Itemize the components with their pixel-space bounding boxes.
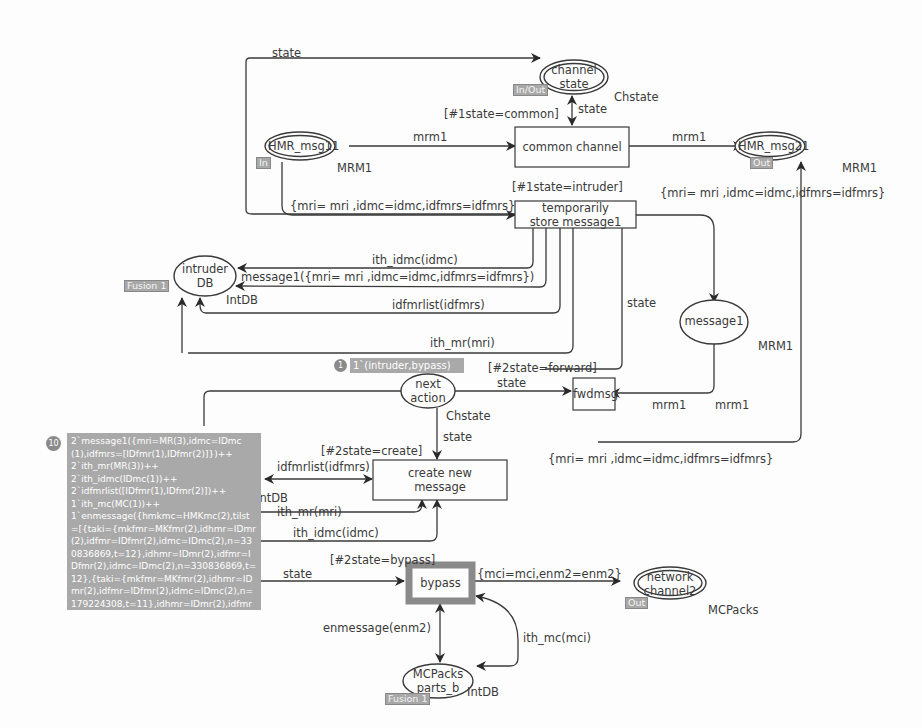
token-count-badge[interactable]: 1 — [334, 359, 347, 372]
transition-common-channel[interactable]: common channel — [515, 140, 629, 154]
colorset-chstate: Chstate — [446, 409, 490, 423]
arc-label: idfmrlist(idfmrs) — [277, 460, 370, 474]
arc-label: state — [283, 567, 312, 581]
colorset-chstate: Chstate — [614, 90, 658, 104]
arc-label: {mri= mri ,idmc=idmc,idfmrs=idfmrs} — [660, 186, 885, 200]
arc-label: state — [627, 296, 656, 310]
arc-label: ith_mc(mci) — [523, 631, 591, 645]
transition-create-new-message[interactable]: create new message — [373, 466, 507, 494]
colorset-intdb: IntDB — [467, 685, 499, 699]
place-network-channel2[interactable]: network channel2 — [640, 570, 700, 598]
arc-label: mrm1 — [413, 130, 447, 144]
arc-label: state — [497, 376, 526, 390]
place-hmr-msg11[interactable]: HMR_msg11 — [268, 139, 332, 153]
arc-label: enmessage(enm2) — [323, 621, 431, 635]
transition-bypass[interactable]: bypass — [409, 576, 472, 590]
colorset-mcpacks: MCPacks — [708, 603, 758, 617]
arc-label: {mri= mri ,idmc=idmc,idfmrs=idfmrs} — [290, 199, 515, 213]
port-tag-out: Out — [750, 157, 773, 169]
place-message1[interactable]: message1 — [684, 314, 744, 328]
arc-label: mrm1 — [715, 398, 749, 412]
arc-label: state — [578, 102, 607, 116]
marking-next-action: 1`(intruder,bypass) — [350, 358, 464, 373]
place-hmr-msg21[interactable]: HMR_msg21 — [738, 139, 802, 153]
arc-label: {mri= mri ,idmc=idmc,idfmrs=idfmrs} — [548, 452, 773, 466]
arc-label: {mci=mci,enm2=enm2} — [477, 567, 622, 581]
arc-label: ith_idmc(idmc) — [293, 526, 379, 540]
guard-create: [#2state=create] — [321, 444, 422, 458]
arc-label: state — [443, 430, 472, 444]
fusion-tag: Fusion 1 — [385, 693, 430, 705]
colorset-mrm1: MRM1 — [337, 161, 372, 175]
guard-bypass: [#2state=bypass] — [330, 553, 435, 567]
arc-label: message1({mri= mri ,idmc=idmc,idfmrs=idf… — [241, 270, 534, 284]
arc-label: idfmrlist(idfmrs) — [392, 298, 485, 312]
transition-fwdmsg[interactable]: fwdmsg — [573, 387, 615, 401]
guard-common: [#1state=common] — [444, 107, 559, 121]
arc-label: ith_mr(mri) — [277, 505, 342, 519]
colorset-mrm1: MRM1 — [842, 161, 877, 175]
port-tag-in: In — [256, 157, 271, 169]
port-tag-in-out: In/Out — [513, 84, 548, 96]
colorset-intdb: IntDB — [226, 293, 258, 307]
place-intruder-db[interactable]: intruder DB — [178, 262, 232, 290]
arc-label: ith_mr(mri) — [430, 336, 495, 350]
token-count-badge[interactable]: 10 — [46, 436, 61, 451]
guard-intruder: [#1state=intruder] — [512, 180, 623, 194]
port-tag-out: Out — [625, 597, 648, 609]
marking-intdb: 2`message1({mri=MR(3),idmc=IDmc(1),idfmr… — [67, 433, 261, 610]
arc-label: ith_idmc(idmc) — [372, 253, 458, 267]
arc-label: mrm1 — [672, 130, 706, 144]
guard-forward: [#2state=forward] — [488, 361, 597, 375]
arc-label: mrm1 — [652, 398, 686, 412]
place-mcpacks-parts-b[interactable]: MCPacks parts_b — [405, 667, 471, 695]
place-next-action[interactable]: next action — [404, 377, 452, 405]
fusion-tag: Fusion 1 — [124, 280, 169, 292]
transition-temporarily-store[interactable]: temporarily store message1 — [515, 201, 636, 229]
arc-label: state — [272, 46, 301, 60]
place-channel-state[interactable]: channel state — [544, 63, 604, 91]
colorset-mrm1: MRM1 — [758, 339, 793, 353]
